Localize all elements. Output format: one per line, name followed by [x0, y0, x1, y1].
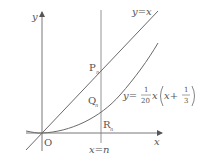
parabola-curve [26, 43, 158, 133]
frac1-numerator: 1 [144, 86, 148, 94]
y-axis-label: y [31, 11, 38, 22]
curve-label-inner: x+ [164, 90, 178, 101]
curve-equation-label: y= 1 20 x x+ 1 3 [122, 86, 195, 106]
frac1-denominator: 20 [141, 97, 150, 105]
point-r-subscript: n [110, 126, 113, 132]
x-axis-label: x [154, 136, 160, 147]
point-q-subscript: n [95, 102, 98, 108]
line-y-equals-x-label: y=x [131, 6, 152, 17]
frac2-denominator: 3 [184, 97, 188, 105]
curve-label-mid: x [152, 90, 158, 101]
function-graph-diagram: y x O y=x x=n P n Q n R n y= 1 20 x x+ 1… [0, 0, 210, 162]
curve-label-prefix: y= [122, 90, 137, 101]
point-p-label: P [89, 62, 96, 73]
frac2-numerator: 1 [184, 86, 188, 94]
line-y-equals-x [26, 11, 158, 150]
left-paren [161, 86, 164, 106]
right-paren [192, 86, 195, 106]
point-p-subscript: n [96, 69, 99, 75]
origin-label: O [44, 137, 52, 148]
vertical-line-label: x=n [89, 144, 109, 155]
